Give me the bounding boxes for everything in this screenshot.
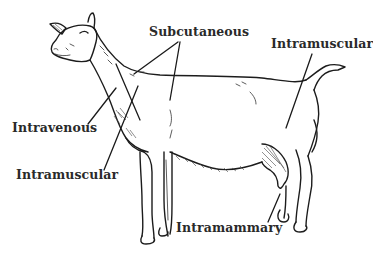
label-intramammary: Intramammary <box>176 222 282 235</box>
goat-body <box>90 28 345 188</box>
leader-subcutaneous-body <box>170 42 180 100</box>
label-intramuscular-hind: Intramuscular <box>271 38 373 51</box>
goat-head <box>50 13 97 62</box>
label-intramuscular-neck: Intramuscular <box>16 169 118 182</box>
goat-front-legs <box>140 152 172 244</box>
label-intravenous: Intravenous <box>12 122 97 135</box>
goat-hind-legs <box>278 120 317 232</box>
label-subcutaneous: Subcutaneous <box>149 26 249 39</box>
leader-lines <box>88 42 312 222</box>
leader-subcutaneous-neck <box>134 42 178 74</box>
leader-intramuscular-hind <box>286 54 312 128</box>
